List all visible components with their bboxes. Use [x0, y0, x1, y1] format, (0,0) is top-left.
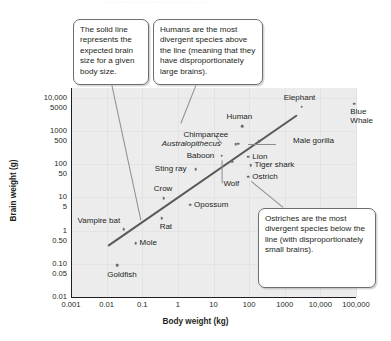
gridline-vertical: [142, 88, 143, 297]
x-axis-tick-label: 100: [243, 300, 256, 309]
data-point-label: Mole: [140, 239, 157, 248]
gridline-horizontal: [71, 197, 356, 198]
data-point: [353, 102, 356, 105]
data-point: [122, 228, 125, 231]
x-axis-tick-label: 1000: [276, 300, 293, 309]
x-axis-tick-label: 10,000: [309, 300, 332, 309]
data-point-label: Opossum: [194, 201, 228, 210]
data-point: [258, 140, 261, 143]
y-axis-tick-label: 1: [25, 227, 67, 235]
data-point: [300, 105, 303, 108]
gridline-vertical: [107, 88, 108, 297]
data-point-label: Australopithecus: [162, 140, 221, 149]
data-point-label: Male gorilla: [293, 137, 334, 146]
data-point: [116, 264, 119, 267]
y-axis-tick-label: 5000: [25, 104, 67, 112]
data-point-label: Sting ray: [155, 165, 187, 174]
y-axis-tick-label: 5: [25, 203, 67, 211]
leader-wolf: [222, 160, 223, 183]
data-point: [249, 164, 252, 167]
data-point: [247, 155, 250, 158]
x-axis-tick-label: 0.1: [137, 300, 148, 309]
data-point-label: Lion: [252, 153, 267, 162]
data-point: [160, 217, 163, 220]
data-point-label: Vampire bat: [78, 217, 121, 226]
y-axis-tick-label: 50: [25, 170, 67, 178]
data-point-label: Rat: [160, 223, 172, 232]
gridline-horizontal: [71, 164, 356, 165]
data-point-label: Baboon: [187, 152, 215, 161]
data-point: [247, 176, 250, 179]
leader-male-gorilla: [248, 144, 276, 145]
data-point-label: Ostrich: [252, 173, 277, 182]
data-point: [220, 155, 223, 158]
data-point-label: Crow: [154, 185, 173, 194]
data-point: [189, 204, 192, 207]
cropped-caption-sliver: ·· ··· ···· ·· ···· ·· ·· ···· ···· ····…: [104, 0, 289, 5]
data-point-label: Goldfish: [107, 271, 136, 280]
x-axis-line: [71, 297, 356, 298]
y-axis-tick-label: 0.50: [25, 237, 67, 245]
data-point-label: Human: [226, 113, 252, 122]
callout-solid-line: The solid line represents the expected b…: [73, 19, 149, 85]
data-point: [231, 160, 234, 163]
y-axis-tick-label: 10,000: [25, 94, 67, 102]
data-point: [195, 168, 198, 171]
callout-humans: Humans are the most divergent species ab…: [153, 19, 263, 85]
data-point-label: Elephant: [284, 94, 316, 103]
y-axis-tick-labels: 10,000500010005001005010510.500.100.050.…: [22, 0, 67, 341]
data-point-label: Blue Whale: [350, 107, 380, 125]
y-axis-tick-label: 100: [25, 160, 67, 168]
x-axis-tick-label: 0.01: [99, 300, 114, 309]
y-axis-line: [71, 88, 72, 298]
data-point: [241, 125, 244, 128]
x-axis-title: Body weight (kg): [0, 317, 391, 326]
data-point: [134, 242, 137, 245]
y-axis-title: Brain weight (g): [9, 141, 18, 241]
gridline-vertical: [178, 88, 179, 297]
x-axis-tick-label: 0.001: [61, 300, 80, 309]
data-point-label: Wolf: [223, 180, 239, 189]
y-axis-tick-label: 0.05: [25, 270, 67, 278]
data-point-label: Chimpanzee: [183, 131, 228, 140]
x-axis-tick-label: 10: [209, 300, 217, 309]
y-axis-tick-label: 0.10: [25, 260, 67, 268]
x-axis-tick-label: 100,000: [342, 300, 369, 309]
data-point: [237, 142, 240, 145]
y-axis-tick-label: 10: [25, 193, 67, 201]
data-point-label: Tiger shark: [255, 161, 295, 170]
y-axis-tick-label: 1000: [25, 127, 67, 135]
y-axis-tick-label: 500: [25, 137, 67, 145]
callout-ostriches: Ostriches are the most divergent species…: [258, 208, 376, 288]
gridline-vertical: [214, 88, 215, 297]
data-point: [162, 197, 165, 200]
brain-body-weight-figure: ·· ··· ···· ·· ···· ·· ·· ···· ···· ····…: [0, 0, 391, 341]
x-axis-tick-label: 1: [176, 300, 180, 309]
